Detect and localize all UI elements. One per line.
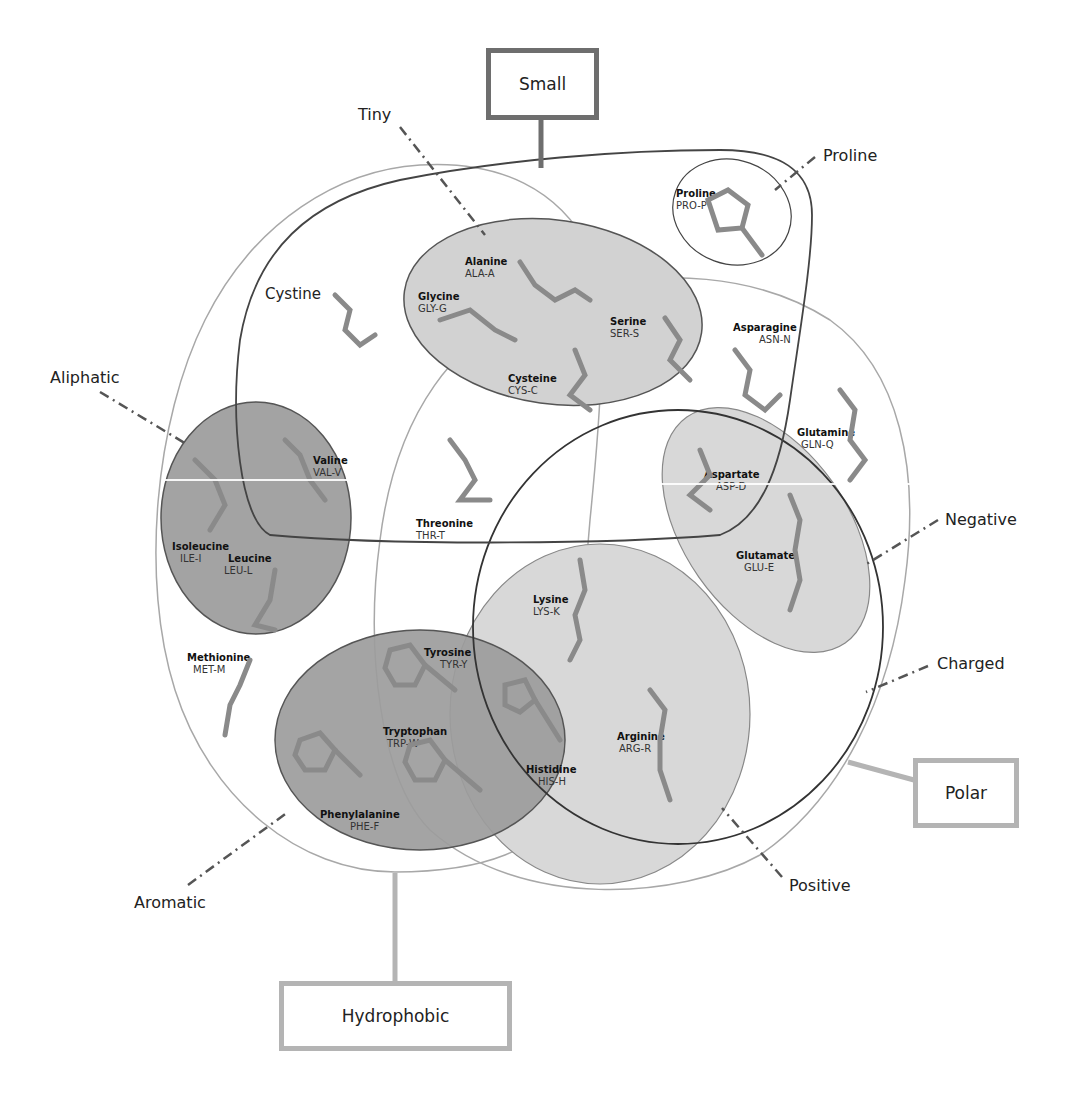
negative-leader <box>865 520 938 565</box>
tiny-leader <box>400 127 485 235</box>
amino-acid-valine: Valine VAL-V <box>313 455 348 479</box>
venn-shapes <box>0 0 1065 1093</box>
charged-label: Charged <box>937 654 1005 673</box>
amino-acid-phenylalanine: Phenylalanine PHE-F <box>320 809 400 833</box>
negative-label: Negative <box>945 510 1017 529</box>
aromatic-leader <box>188 812 288 885</box>
amino-acid-tyrosine: Tyrosine TYR-Y <box>424 647 471 671</box>
amino-acid-histidine: Histidine HIS-H <box>526 764 576 788</box>
small-category-box: Small <box>486 48 599 120</box>
tiny-label: Tiny <box>358 105 391 124</box>
aromatic-label: Aromatic <box>134 893 206 912</box>
amino-acid-glutamine: Glutamine GLN-Q <box>797 427 855 451</box>
venn-diagram: Small Polar Hydrophobic Tiny Proline Ali… <box>0 0 1065 1093</box>
amino-acid-methionine: Methionine MET-M <box>187 652 250 676</box>
small-box-label: Small <box>519 74 566 94</box>
amino-acid-alanine: Alanine ALA-A <box>465 256 507 280</box>
amino-acid-arginine: Arginine ARG-R <box>617 731 665 755</box>
positive-label: Positive <box>789 876 851 895</box>
amino-acid-asparagine: Asparagine ASN-N <box>733 322 797 346</box>
scan-artifact-line <box>640 483 920 485</box>
amino-acid-threonine: Threonine THR-T <box>416 518 473 542</box>
amino-acid-glycine: Glycine GLY-G <box>418 291 459 315</box>
aliphatic-label: Aliphatic <box>50 368 119 387</box>
amino-acid-serine: Serine SER-S <box>610 316 646 340</box>
polar-category-box: Polar <box>913 758 1019 828</box>
scan-artifact-line <box>165 479 375 481</box>
amino-acid-glutamate: Glutamate GLU-E <box>736 550 795 574</box>
hydrophobic-category-box: Hydrophobic <box>279 981 512 1051</box>
amino-acid-proline: Proline PRO-P <box>676 188 716 212</box>
amino-acid-leucine: Leucine LEU-L <box>224 553 272 577</box>
amino-acid-tryptophan: Tryptophan TRP-W <box>383 726 447 750</box>
hydrophobic-box-label: Hydrophobic <box>342 1006 449 1026</box>
proline-label: Proline <box>823 146 877 165</box>
polar-connector <box>848 762 914 780</box>
amino-acid-cysteine: Cysteine CYS-C <box>508 373 557 397</box>
polar-box-label: Polar <box>945 783 987 803</box>
amino-acid-aspartate: Aspartate ASP-D <box>704 469 760 493</box>
amino-acid-isoleucine: Isoleucine ILE-I <box>172 541 229 565</box>
cystine-label: Cystine <box>265 285 321 303</box>
amino-acid-lysine: Lysine LYS-K <box>533 594 569 618</box>
